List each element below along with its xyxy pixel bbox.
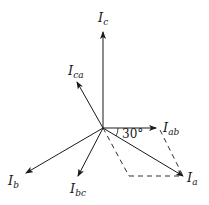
angle-arc xyxy=(116,128,118,136)
label-i-ab: Iab xyxy=(162,120,180,137)
label-i-c: Ic xyxy=(97,10,108,27)
phasor-labels: IcIcaIabIaIbIbc xyxy=(7,10,198,198)
label-i-bc: Ibc xyxy=(69,181,86,198)
phasor-diagram: IcIcaIabIaIbIbc 30° xyxy=(0,0,209,205)
vector-i-ca xyxy=(77,82,103,128)
angle-label: 30° xyxy=(122,127,143,141)
label-i-b: Ib xyxy=(7,173,19,190)
phasor-vectors xyxy=(26,32,183,176)
label-i-a: Ia xyxy=(186,170,198,187)
label-i-ca: Ica xyxy=(67,63,84,80)
